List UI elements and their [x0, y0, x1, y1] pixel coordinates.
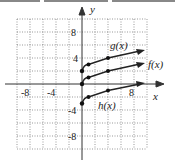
graph: y x -8 -4 8 8 4 -4 -8 g(x) f(x) h(x) [0, 0, 175, 166]
y-tick-neg8: -8 [68, 131, 76, 142]
x-axis-label: x [152, 90, 158, 102]
f-arrow-icon [136, 62, 145, 68]
curve-arrows [136, 49, 145, 87]
y-axis-label: y [89, 3, 95, 15]
g-arrow-icon [136, 49, 145, 55]
label-h: h(x) [98, 99, 116, 112]
label-g: g(x) [110, 39, 128, 52]
y-tick-neg4: -4 [68, 105, 76, 116]
y-tick-8: 8 [71, 27, 76, 38]
x-tick-neg8: -8 [21, 87, 29, 98]
x-axis-arrow-icon [156, 81, 164, 87]
y-axis-arrow-icon [79, 7, 85, 15]
x-tick-8: 8 [129, 87, 134, 98]
curve-g [82, 51, 140, 71]
label-f: f(x) [148, 58, 164, 71]
x-tick-neg4: -4 [47, 87, 55, 98]
y-tick-4: 4 [73, 53, 78, 64]
curve-f [82, 64, 140, 84]
